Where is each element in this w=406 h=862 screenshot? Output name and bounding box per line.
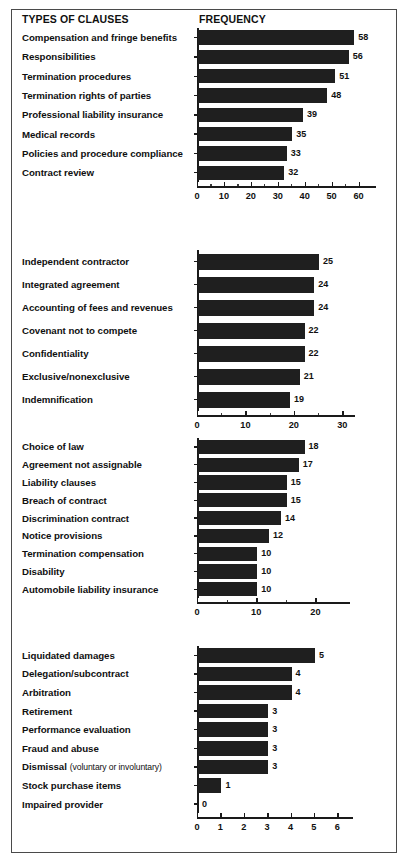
bar-value-label: 15 bbox=[291, 478, 301, 487]
x-axis-tick bbox=[315, 598, 316, 602]
x-axis-tick-label: 0 bbox=[194, 421, 199, 430]
bar bbox=[198, 564, 257, 578]
bar bbox=[198, 166, 284, 180]
x-axis-tick-label: 0 bbox=[194, 608, 199, 617]
category-label-text: Automobile liability insurance bbox=[22, 584, 158, 595]
x-axis-tick-label: 20 bbox=[289, 421, 299, 430]
category-tick bbox=[194, 500, 197, 501]
category-tick bbox=[194, 803, 197, 804]
category-label-text: Responsibilities bbox=[22, 51, 96, 62]
category-tick bbox=[194, 589, 197, 590]
bar bbox=[198, 529, 269, 543]
bar bbox=[198, 146, 287, 160]
category-label: Stock purchase items bbox=[22, 776, 198, 795]
category-label: Independent contractor bbox=[22, 250, 198, 273]
bar bbox=[198, 547, 257, 561]
category-tick bbox=[194, 692, 197, 693]
x-axis-tick bbox=[278, 182, 279, 186]
bar bbox=[198, 475, 287, 489]
category-label: Contract review bbox=[22, 163, 198, 182]
category-tick bbox=[194, 153, 197, 154]
category-tick bbox=[194, 446, 197, 447]
category-label: Automobile liability insurance bbox=[22, 580, 198, 598]
plot-area: 58565148393533320102030405060 bbox=[197, 28, 397, 208]
bar-value-label: 10 bbox=[261, 585, 271, 594]
category-label: Retirement bbox=[22, 702, 198, 721]
x-axis-tick-label: 6 bbox=[335, 823, 340, 832]
bar bbox=[198, 704, 268, 719]
x-axis-tick bbox=[342, 411, 343, 415]
category-label-text: Covenant not to compete bbox=[22, 325, 137, 336]
bar-value-label: 19 bbox=[294, 395, 304, 404]
bar-value-label: 17 bbox=[303, 460, 313, 469]
category-label: Termination procedures bbox=[22, 67, 198, 86]
x-axis-tick bbox=[197, 598, 198, 602]
x-axis-tick-label: 30 bbox=[337, 421, 347, 430]
category-label-text: Performance evaluation bbox=[22, 724, 131, 735]
x-axis-tick-label: 10 bbox=[240, 421, 250, 430]
bar bbox=[198, 392, 290, 408]
bar-value-label: 3 bbox=[272, 707, 277, 716]
x-axis-tick bbox=[305, 182, 306, 186]
bar-value-label: 35 bbox=[296, 130, 306, 139]
bar bbox=[198, 69, 335, 83]
x-axis-minor-tick bbox=[286, 600, 287, 602]
category-label-text: Choice of law bbox=[22, 441, 84, 452]
category-label-text: Compensation and fringe benefits bbox=[22, 32, 177, 43]
category-tick bbox=[194, 655, 197, 656]
bar-value-label: 12 bbox=[273, 531, 283, 540]
bar bbox=[198, 648, 315, 663]
category-tick bbox=[194, 95, 197, 96]
bar-value-label: 4 bbox=[296, 688, 301, 697]
chart-header: TYPES OF CLAUSES FREQUENCY bbox=[12, 10, 396, 30]
bar bbox=[198, 88, 327, 102]
category-label: Agreement not assignable bbox=[22, 456, 198, 474]
category-label-note: (voluntary or involuntary) bbox=[70, 762, 162, 772]
category-label: Medical records bbox=[22, 124, 198, 143]
category-label-text: Termination rights of parties bbox=[22, 90, 151, 101]
x-axis-tick-label: 5 bbox=[311, 823, 316, 832]
bar-value-label: 32 bbox=[288, 168, 298, 177]
bar-value-label: 51 bbox=[339, 72, 349, 81]
bar-value-label: 56 bbox=[353, 52, 363, 61]
bar bbox=[198, 127, 292, 141]
x-axis-tick-label: 30 bbox=[273, 192, 283, 201]
x-axis-tick-label: 20 bbox=[246, 192, 256, 201]
bar-value-label: 39 bbox=[307, 110, 317, 119]
bar-value-label: 21 bbox=[304, 372, 314, 381]
x-axis-minor-tick bbox=[270, 413, 271, 415]
x-axis-tick-label: 10 bbox=[219, 192, 229, 201]
bar-value-label: 22 bbox=[309, 349, 319, 358]
category-label-text: Liability clauses bbox=[22, 477, 96, 488]
category-label: Arbitration bbox=[22, 683, 198, 702]
category-label: Termination rights of parties bbox=[22, 86, 198, 105]
category-tick bbox=[194, 172, 197, 173]
x-axis-tick bbox=[291, 813, 292, 817]
x-axis-tick-label: 50 bbox=[326, 192, 336, 201]
category-label-text: Breach of contract bbox=[22, 495, 107, 506]
category-label: Responsibilities bbox=[22, 47, 198, 66]
bar bbox=[198, 300, 314, 316]
x-axis-line bbox=[197, 186, 376, 188]
category-tick bbox=[194, 482, 197, 483]
category-label-text: Policies and procedure compliance bbox=[22, 148, 183, 159]
bar bbox=[198, 582, 257, 596]
category-label-text: Termination compensation bbox=[22, 548, 144, 559]
plot-area: 252424222221190102030 bbox=[197, 250, 392, 437]
bar-value-label: 10 bbox=[261, 567, 271, 576]
bar bbox=[198, 667, 292, 682]
category-label-text: Stock purchase items bbox=[22, 780, 121, 791]
bar-value-label: 14 bbox=[285, 514, 295, 523]
x-axis-tick-label: 0 bbox=[194, 823, 199, 832]
x-axis-tick-label: 4 bbox=[288, 823, 293, 832]
category-label-text: Confidentiality bbox=[22, 348, 89, 359]
bar bbox=[198, 511, 281, 525]
x-axis-tick bbox=[220, 813, 221, 817]
bar-value-label: 33 bbox=[291, 149, 301, 158]
x-axis-minor-tick bbox=[264, 184, 265, 186]
x-axis-tick-label: 0 bbox=[194, 192, 199, 201]
bar-value-label: 24 bbox=[318, 303, 328, 312]
x-axis-tick bbox=[197, 411, 198, 415]
category-label: Integrated agreement bbox=[22, 273, 198, 296]
category-tick bbox=[194, 673, 197, 674]
